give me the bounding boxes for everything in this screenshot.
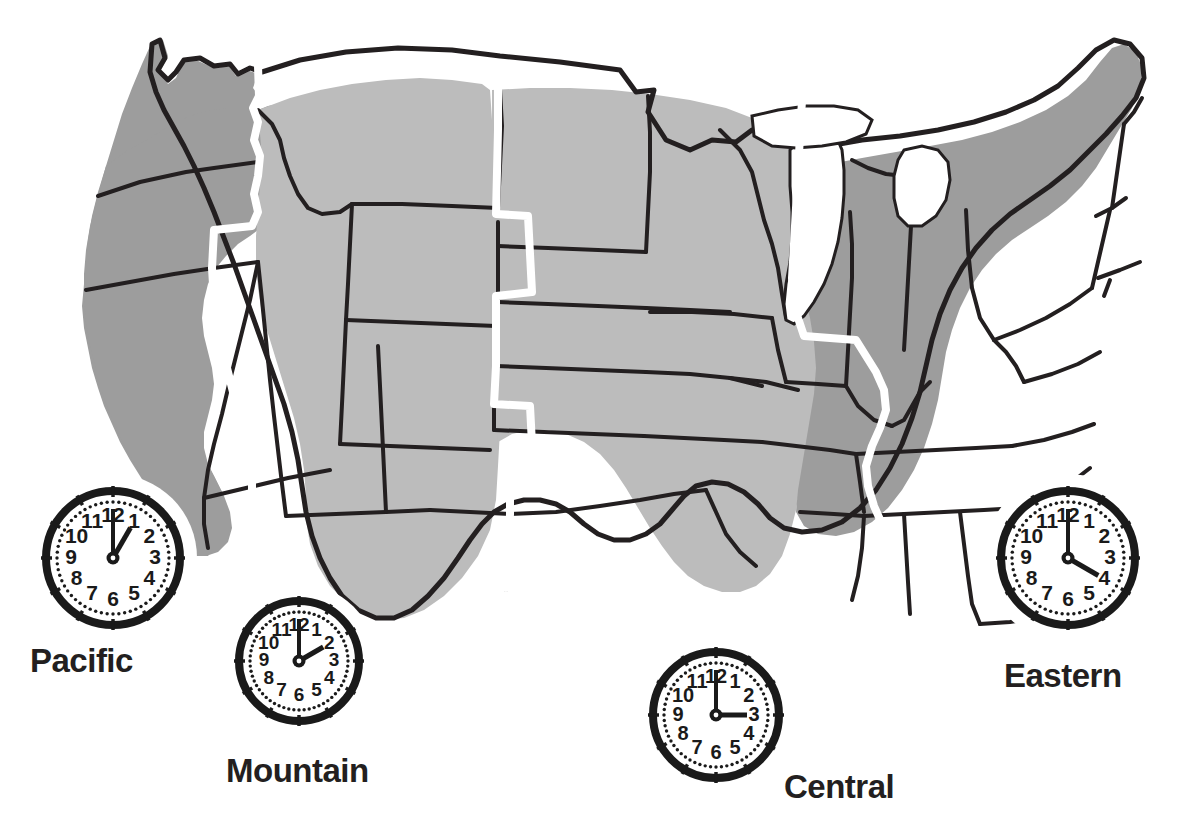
clock-minute-dot [346,654,349,657]
clock-minute-dot [94,610,97,613]
clock-numeral: 5 [729,736,740,758]
clock-minute-dot [337,688,340,691]
clock-minute-dot [134,607,137,610]
zone-label-pacific: Pacific [30,642,133,679]
clock-minute-dot [340,635,343,638]
clock-minute-dot [1115,528,1118,531]
clock-numeral: 11 [686,670,707,692]
clock-minute-dot [342,639,345,642]
clock-minute-dot [312,613,315,616]
clock-minute-dot [342,679,345,682]
map-canvas: 1212345678910111212345678910111212345678… [0,0,1189,830]
clock-minute-dot [693,761,696,764]
clock-minute-dot [766,708,769,711]
clock-minute-dot [735,761,738,764]
clock-minute-dot [1099,602,1102,605]
clock-minute-dot [667,734,670,737]
clock-minute-dot [740,668,743,671]
clock-minute-dot [665,697,668,700]
clock-minute-dot [680,752,683,755]
clock-minute-dot [249,669,252,672]
clock-minute-dot [662,713,665,716]
clock-minute-dot [676,748,679,751]
clock-minute-dot [165,539,168,542]
clock-minute-dot [1115,584,1118,587]
clock-minute-dot [1021,589,1024,592]
clock-minute-dot [676,679,679,682]
clock-minute-dot [1033,602,1036,605]
clock-minute-dot [1122,550,1125,553]
clock-minute-dot [129,503,132,506]
clock-minute-dot [78,602,81,605]
clock-numeral: 6 [1062,587,1074,610]
border-ct-ny [1104,280,1110,296]
clock-numeral: 2 [1099,524,1111,547]
clock-minute-dot [667,692,670,695]
clock-minute-dot [58,539,61,542]
clock-minute-dot [759,687,762,690]
clock-minute-dot [1066,612,1069,615]
clock-minute-dot [745,755,748,758]
clock-minute-dot [1117,534,1120,537]
clock-numeral: 7 [1041,581,1053,604]
clock-numeral: 1 [729,670,740,692]
clock-minute-dot [765,724,768,727]
clock-minute-dot [337,630,340,633]
clock-minute-dot [1121,568,1124,571]
clock-minute-dot [57,545,60,548]
clock-numeral: 4 [743,722,755,744]
clock-minute-dot [735,666,738,669]
clock-minute-dot [745,671,748,674]
clock-minute-dot [756,744,759,747]
clock-minute-dot [663,719,666,722]
clock-minute-dot [1013,574,1016,577]
clock-minute-dot [255,684,258,687]
clock-minute-dot [129,610,132,613]
clock-numeral: 8 [1026,566,1038,589]
clock-minute-dot [1084,610,1087,613]
clock-minute-dot [1015,534,1018,537]
clock-minute-dot [277,704,280,707]
clock-minute-dot [762,692,765,695]
clock-minute-dot [166,568,169,571]
clock-minute-dot [326,699,329,702]
clock-minute-dot [265,623,268,626]
border-ma-ct-ri [1098,262,1140,278]
border-pa-md-nj [1024,352,1100,382]
clock-minute-dot [665,729,668,732]
clock-minute-dot [730,664,733,667]
clock-minute-dot [698,664,701,667]
clock-minute-dot [1055,611,1058,614]
clock-minute-dot [248,659,251,662]
clock-minute-dot [166,545,169,548]
clock-minute-dot [749,752,752,755]
clock-minute-dot [322,702,325,705]
clock-minute-dot [714,765,717,768]
clock-numeral: 8 [678,722,689,744]
clock-numeral: 8 [71,566,83,589]
clock-minute-dot [720,765,723,768]
clock-numeral: 4 [324,667,335,688]
clock-minute-dot [1112,523,1115,526]
clock-minute-dot [58,574,61,577]
clock-minute-dot [1084,503,1087,506]
clock-minute-dot [764,697,767,700]
clock-minute-dot [258,688,261,691]
clock-minute-dot [162,579,165,582]
clock-minute-dot [55,556,58,559]
clock-numeral: 4 [1099,566,1111,589]
clock-minute-dot [1112,589,1115,592]
clock-center-dot [111,556,116,561]
clock-center-dot [297,659,302,664]
clock-minute-dot [149,598,152,601]
clock-minute-dot [334,627,337,630]
clock-minute-dot [1094,605,1097,608]
clock-minute-dot [1060,612,1063,615]
clock-minute-dot [94,503,97,506]
clock-minute-dot [1029,515,1032,518]
clock-minute-dot [66,589,69,592]
clock-minute-dot [105,612,108,615]
clock-minute-dot [688,758,691,761]
clock-minute-dot [273,702,276,705]
clock-numeral: 3 [149,545,161,568]
